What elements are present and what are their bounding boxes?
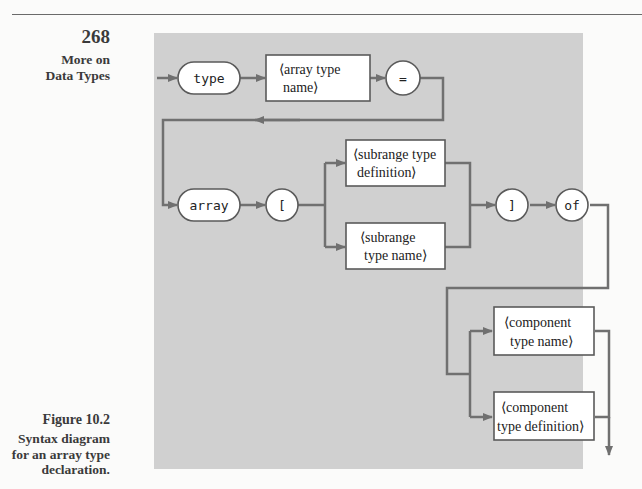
svg-text:⟨array type: ⟨array type (279, 62, 340, 77)
svg-text:]: ] (508, 198, 516, 213)
svg-text:⟨subrange type: ⟨subrange type (353, 147, 436, 162)
svg-text:=: = (399, 71, 407, 86)
nonterminal-subrange-type-definition: ⟨subrange type definition⟩ (346, 140, 445, 186)
nonterminal-component-type-definition: ⟨component type definition⟩ (494, 392, 594, 440)
nonterminal-component-type-name: ⟨component type name⟩ (494, 307, 594, 355)
svg-text:type name⟩: type name⟩ (510, 334, 573, 349)
svg-text:definition⟩: definition⟩ (357, 165, 416, 180)
svg-text:⟨component: ⟨component (504, 315, 571, 330)
symbol-node-left-bracket: [ (266, 189, 298, 221)
keyword-node-type: type (178, 62, 240, 94)
symbol-node-right-bracket: ] (496, 189, 528, 221)
svg-text:array: array (189, 198, 228, 213)
nonterminal-array-type-name: ⟨array type name⟩ (266, 55, 370, 101)
svg-text:⟨subrange: ⟨subrange (360, 230, 416, 245)
svg-text:of: of (564, 198, 580, 213)
svg-text:type definition⟩: type definition⟩ (497, 419, 584, 434)
svg-text:type name⟩: type name⟩ (364, 248, 427, 263)
nonterminal-subrange-type-name: ⟨subrange type name⟩ (346, 223, 445, 269)
keyword-node-array: array (178, 189, 240, 221)
svg-text:name⟩: name⟩ (283, 80, 318, 95)
syntax-diagram: type ⟨array type name⟩ = array [ ⟨subran… (0, 0, 642, 489)
svg-text:type: type (193, 71, 224, 86)
svg-text:[: [ (278, 198, 286, 213)
svg-text:⟨component: ⟨component (501, 400, 568, 415)
keyword-node-of: of (556, 189, 588, 221)
symbol-node-equals: = (386, 61, 420, 95)
